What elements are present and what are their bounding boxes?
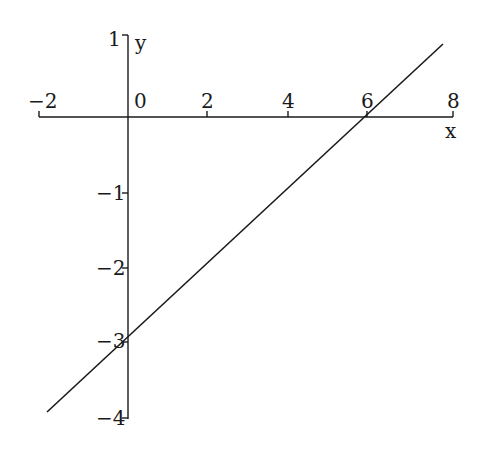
x-tick-label: 2: [201, 89, 214, 113]
data-line: [47, 44, 443, 412]
x-tick-label: 4: [282, 89, 295, 113]
y-tick-label: 1: [108, 27, 121, 51]
x-axis-label: x: [445, 119, 457, 143]
y-axis-label: y: [134, 31, 147, 55]
x-tick-label: 0: [134, 89, 147, 113]
line-chart: −2 0 2 4 6 8 1 −1 −2 −3 −4 y x: [0, 0, 485, 449]
y-tick-label: −4: [96, 406, 125, 430]
y-tick-label: −2: [96, 256, 125, 280]
y-tick-label: −1: [96, 181, 125, 205]
x-tick-label: −2: [28, 89, 57, 113]
y-tick-label: −3: [96, 329, 125, 353]
x-tick-label: 8: [447, 89, 460, 113]
